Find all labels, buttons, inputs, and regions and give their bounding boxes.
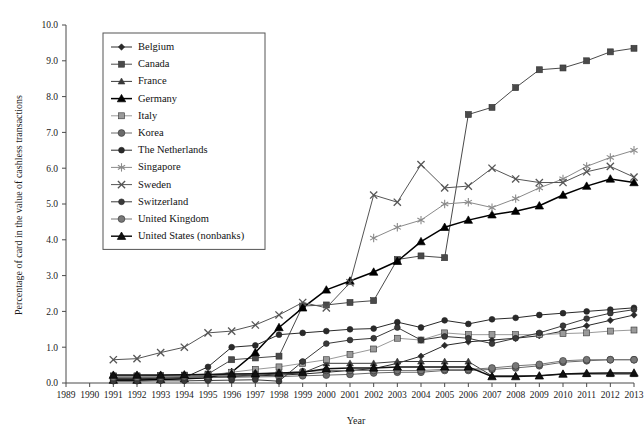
data-point-marker xyxy=(465,321,471,327)
data-point-marker xyxy=(229,344,235,350)
data-point-marker xyxy=(394,335,400,341)
x-tick-label: 1990 xyxy=(80,390,99,400)
data-point-marker xyxy=(118,216,125,223)
chart-series xyxy=(370,146,638,242)
x-tick-label: 1996 xyxy=(222,390,241,400)
data-point-marker xyxy=(442,334,448,340)
data-point-marker xyxy=(229,357,235,363)
data-point-marker xyxy=(488,165,495,172)
data-point-marker xyxy=(607,356,614,363)
data-point-marker xyxy=(347,337,353,343)
data-point-marker xyxy=(489,104,495,110)
y-tick-label: 1.0 xyxy=(46,343,58,353)
y-tick-label: 5.0 xyxy=(46,199,58,209)
data-point-marker xyxy=(465,112,471,118)
data-point-marker xyxy=(607,310,613,316)
x-axis-title: Year xyxy=(347,415,366,426)
legend-label: The Netherlands xyxy=(138,144,208,155)
legend-label: Korea xyxy=(138,127,164,138)
x-tick-label: 2007 xyxy=(483,390,502,400)
y-tick-label: 4.0 xyxy=(46,235,58,245)
data-point-marker xyxy=(394,199,401,206)
legend-label: Canada xyxy=(138,58,170,69)
data-point-marker xyxy=(347,299,353,305)
x-tick-label: 1999 xyxy=(293,390,312,400)
data-point-marker xyxy=(442,255,448,261)
data-point-marker xyxy=(631,327,637,333)
data-point-marker xyxy=(418,325,424,331)
data-point-marker xyxy=(536,330,542,336)
x-tick-label: 1994 xyxy=(175,390,194,400)
data-point-marker xyxy=(560,65,566,71)
y-tick-label: 2.0 xyxy=(46,307,58,317)
data-point-marker xyxy=(631,45,637,51)
x-tick-label: 2012 xyxy=(601,390,620,400)
chart-series xyxy=(109,363,638,380)
y-tick-label: 10.0 xyxy=(41,20,58,30)
x-tick-label: 1995 xyxy=(199,390,218,400)
line-chart-figure: 0.01.02.03.04.05.06.07.08.09.010.0 19891… xyxy=(0,0,644,431)
y-tick-label: 7.0 xyxy=(46,128,58,138)
data-point-marker xyxy=(584,316,590,322)
data-point-marker xyxy=(119,147,125,153)
data-point-marker xyxy=(512,194,519,202)
chart-container: 0.01.02.03.04.05.06.07.08.09.010.0 19891… xyxy=(0,0,644,431)
data-point-marker xyxy=(489,332,495,338)
data-point-marker xyxy=(370,234,377,242)
data-point-marker xyxy=(371,298,377,304)
data-point-marker xyxy=(607,317,613,323)
data-point-marker xyxy=(323,328,329,334)
data-point-marker xyxy=(560,323,566,329)
data-point-marker xyxy=(371,346,377,352)
data-point-marker xyxy=(417,237,425,244)
data-point-marker xyxy=(394,319,400,325)
data-point-marker xyxy=(606,175,614,182)
data-point-marker xyxy=(323,341,329,347)
data-point-marker xyxy=(252,343,258,349)
data-point-marker xyxy=(275,311,282,318)
x-tick-label: 2002 xyxy=(364,390,383,400)
data-point-marker xyxy=(418,253,424,259)
x-tick-label: 2000 xyxy=(317,390,336,400)
data-point-marker xyxy=(560,357,567,364)
x-tick-label: 1993 xyxy=(151,390,170,400)
data-point-marker xyxy=(560,310,566,316)
legend-label: France xyxy=(138,75,167,86)
data-point-marker xyxy=(488,203,495,211)
x-tick-label: 2008 xyxy=(506,390,525,400)
data-point-marker xyxy=(119,199,125,205)
data-point-marker xyxy=(347,326,353,332)
data-point-marker xyxy=(607,49,613,55)
data-point-marker xyxy=(513,335,519,341)
legend-label: Switzerland xyxy=(138,196,189,207)
data-point-marker xyxy=(489,365,496,372)
x-tick-label: 2009 xyxy=(530,390,549,400)
data-point-marker xyxy=(536,312,542,318)
legend-label: Sweden xyxy=(138,179,172,190)
data-point-marker xyxy=(465,335,471,341)
data-point-marker xyxy=(417,161,424,168)
x-tick-label: 2005 xyxy=(435,390,454,400)
data-point-marker xyxy=(371,335,377,341)
data-point-marker xyxy=(371,326,377,332)
data-point-marker xyxy=(583,323,589,329)
data-point-marker xyxy=(276,378,282,384)
data-point-marker xyxy=(300,330,306,336)
data-point-marker xyxy=(513,85,519,91)
data-point-marker xyxy=(583,356,590,363)
legend-label: United States (nonbanks) xyxy=(138,230,245,242)
x-tick-label: 2010 xyxy=(554,390,573,400)
y-axis-title: Percentage of card in the value of cashl… xyxy=(13,95,24,315)
data-point-marker xyxy=(394,325,400,331)
data-point-marker xyxy=(489,341,495,347)
data-point-marker xyxy=(205,364,211,370)
legend-label: Singapore xyxy=(138,161,181,172)
data-point-marker xyxy=(370,191,377,198)
data-point-marker xyxy=(631,356,638,363)
data-point-marker xyxy=(119,113,125,119)
data-point-marker xyxy=(584,58,590,64)
data-point-marker xyxy=(118,130,125,137)
data-point-marker xyxy=(489,316,495,322)
x-tick-label: 2006 xyxy=(459,390,478,400)
data-point-marker xyxy=(584,330,590,336)
